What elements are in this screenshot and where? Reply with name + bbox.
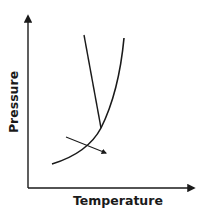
direction-arrow: [66, 137, 106, 153]
y-axis-label: Pressure: [8, 71, 21, 133]
phase-diagram: [0, 0, 207, 221]
x-axis-label: Temperature: [73, 195, 153, 208]
steep-line: [84, 35, 101, 128]
